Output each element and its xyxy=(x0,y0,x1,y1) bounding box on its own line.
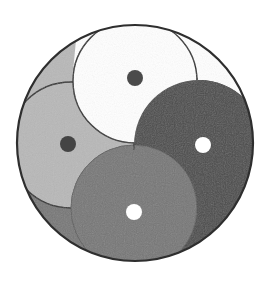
yin-yang-svg xyxy=(0,0,268,281)
light-gray-segment-dot xyxy=(60,136,76,152)
triple-yin-yang-figure xyxy=(0,0,268,281)
dark-segment-dot xyxy=(195,137,211,153)
medium-gray-segment-dot xyxy=(126,204,142,220)
white-segment-dot xyxy=(127,70,143,86)
